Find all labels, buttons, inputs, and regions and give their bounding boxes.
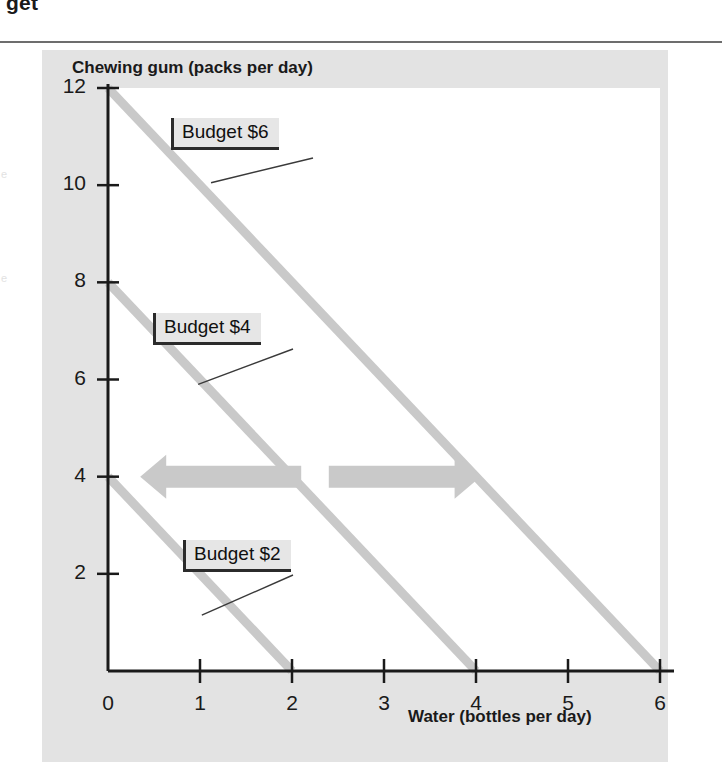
y-tick-label: 12: [46, 74, 86, 98]
callout-budget-4: Budget $4: [153, 313, 261, 345]
callout-budget-2: Budget $2: [183, 540, 291, 572]
callout-budget-6: Budget $6: [171, 118, 279, 150]
y-tick-label: 2: [46, 560, 86, 584]
leader-line: [211, 158, 313, 183]
budget-line-figure: Chewing gum (packs per day) Water (bottl…: [42, 50, 668, 762]
x-tick-label: 1: [180, 691, 220, 715]
x-tick-label: 5: [548, 691, 588, 715]
budget-line-1: [108, 88, 660, 671]
x-tick-label: 4: [456, 691, 496, 715]
x-tick-label: 2: [272, 691, 312, 715]
margin-text-fragment-bottom: e: [1, 272, 7, 284]
series-layer: [108, 88, 660, 671]
x-tick-label: 6: [640, 691, 680, 715]
leader-line: [198, 349, 293, 384]
margin-text-fragment-top: e: [1, 168, 7, 180]
increase-budget-arrow: [329, 455, 481, 499]
page-divider-rule: [0, 41, 722, 43]
y-tick-label: 8: [46, 268, 86, 292]
y-tick-label: 4: [46, 463, 86, 487]
x-tick-label: 0: [88, 691, 128, 715]
x-tick-label: 3: [364, 691, 404, 715]
chart-canvas: [42, 50, 668, 762]
y-tick-label: 10: [46, 171, 86, 195]
y-tick-label: 6: [46, 366, 86, 390]
cropped-page-heading: get: [6, 0, 38, 15]
budget-line-3: [108, 477, 292, 671]
